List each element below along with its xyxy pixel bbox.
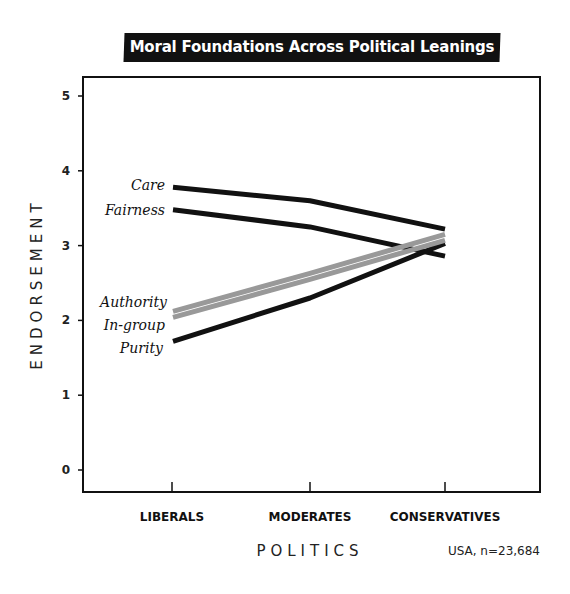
series-line-purity	[173, 243, 445, 341]
label-in-group: In-group	[103, 317, 165, 333]
x-axis: LIBERALS MODERATES CONSERVATIVES	[140, 482, 501, 524]
x-axis-label: POLITICS	[256, 542, 363, 560]
y-tick-3: 3	[62, 239, 70, 253]
sample-note: USA, n=23,684	[448, 544, 540, 558]
x-category-liberals: LIBERALS	[140, 510, 204, 524]
x-category-conservatives: CONSERVATIVES	[390, 510, 501, 524]
line-chart: 0 1 2 3 4 5 LIBERALS MODERATES CONSERVAT…	[0, 0, 570, 594]
y-axis: 0 1 2 3 4 5	[62, 89, 83, 477]
series-line-care	[173, 187, 445, 229]
series-line-fairness	[173, 210, 445, 256]
label-fairness: Fairness	[104, 202, 165, 218]
series-labels: Care Fairness Authority In-group Purity	[98, 177, 168, 356]
series-lines	[173, 187, 445, 341]
series-line-in-group	[173, 240, 445, 317]
x-category-moderates: MODERATES	[269, 510, 352, 524]
label-authority: Authority	[98, 294, 168, 310]
y-axis-label: ENDORSEMENT	[28, 198, 46, 369]
y-tick-2: 2	[62, 313, 70, 327]
y-tick-5: 5	[62, 89, 70, 103]
label-care: Care	[131, 177, 165, 193]
y-tick-4: 4	[62, 164, 70, 178]
plot-frame	[83, 77, 540, 492]
y-tick-0: 0	[62, 463, 70, 477]
label-purity: Purity	[119, 340, 164, 356]
y-tick-1: 1	[62, 388, 70, 402]
